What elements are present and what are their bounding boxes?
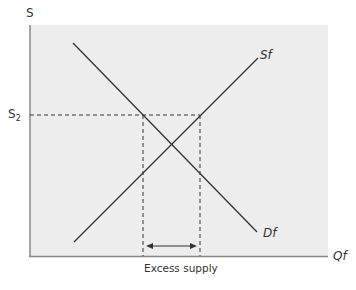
- s2-label-subscript: 2: [16, 114, 21, 123]
- supply-curve-label: Sf: [260, 48, 272, 62]
- s2-label: S2: [8, 107, 21, 123]
- x-axis-label: Qf: [333, 249, 347, 263]
- excess-supply-label: Excess supply: [144, 262, 218, 274]
- s2-label-main: S: [8, 107, 16, 121]
- plot-background: [30, 25, 328, 256]
- diagram-canvas: [0, 0, 356, 290]
- y-axis-label: S: [26, 6, 34, 20]
- demand-curve-label: Df: [263, 226, 276, 240]
